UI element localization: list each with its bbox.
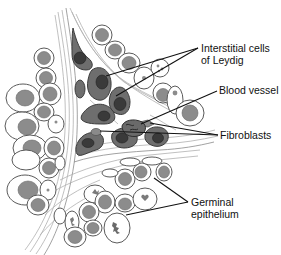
testis-histology-diagram: Interstitial cells of Leydig Blood vesse… [0,0,281,255]
label-germinal-line2: epithelium [191,208,239,220]
blood-vessel [122,120,145,137]
lower-germ-cells [64,157,172,247]
label-fibroblasts: Fibroblasts [220,129,271,141]
label-leydig-line2: of Leydig [201,54,244,66]
label-leydig-line1: Interstitial cells [201,42,270,54]
label-blood-vessel: Blood vessel [219,84,279,96]
label-germinal-line1: Germinal [191,196,234,208]
